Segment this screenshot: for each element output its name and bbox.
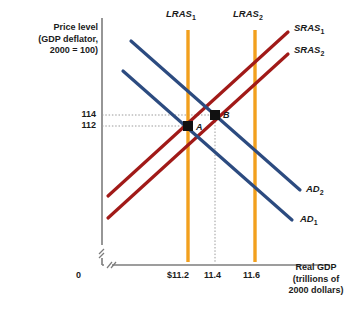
chart-figure: Price level (GDP deflator, 2000 = 100) R… xyxy=(0,0,357,314)
curve-label-ad1-sub: 1 xyxy=(314,219,318,226)
x-axis-title-line2: (trillions of xyxy=(278,274,354,286)
x-axis-title: Real GDP (trillions of 2000 dollars) xyxy=(278,262,354,297)
curve-label-lras1-text: LRAS xyxy=(166,8,192,19)
curve-label-lras1: LRAS1 xyxy=(166,8,196,21)
x-axis-title-line1: Real GDP xyxy=(278,262,354,274)
y-tick-112: 112 xyxy=(54,120,96,130)
point-marker-b xyxy=(210,110,220,120)
curve-label-ad2: AD2 xyxy=(306,183,324,196)
x-tick-11-2: $11.2 xyxy=(167,270,189,280)
curve-label-ad1-text: AD xyxy=(300,213,314,224)
curve-ad1 xyxy=(123,71,292,220)
curve-label-lras2: LRAS2 xyxy=(233,8,263,21)
curve-sras1 xyxy=(108,32,288,196)
curve-label-lras1-sub: 1 xyxy=(192,14,196,21)
y-axis-title-line3: 2000 = 100) xyxy=(14,45,98,57)
x-tick-11-4: 11.4 xyxy=(204,270,221,280)
curve-label-ad2-text: AD xyxy=(306,183,320,194)
curve-label-sras1-text: SRAS xyxy=(294,22,320,33)
curve-label-sras1: SRAS1 xyxy=(294,22,324,35)
curve-label-lras2-text: LRAS xyxy=(233,8,259,19)
y-axis-title-line1: Price level xyxy=(14,22,98,34)
y-tick-114: 114 xyxy=(54,109,96,119)
curve-label-sras2: SRAS2 xyxy=(294,44,324,57)
curve-label-lras2-sub: 2 xyxy=(259,14,263,21)
curve-label-ad2-sub: 2 xyxy=(320,189,324,196)
point-label-a: A xyxy=(196,122,203,132)
curve-label-sras2-sub: 2 xyxy=(320,50,324,57)
y-axis-title: Price level (GDP deflator, 2000 = 100) xyxy=(14,22,98,57)
x-axis-title-line3: 2000 dollars) xyxy=(278,285,354,297)
x-tick-11-6: 11.6 xyxy=(243,270,260,280)
curve-label-sras1-sub: 1 xyxy=(320,28,324,35)
curve-label-sras2-text: SRAS xyxy=(294,44,320,55)
point-marker-a xyxy=(183,121,193,131)
point-label-b: B xyxy=(223,110,230,120)
y-axis-title-line2: (GDP deflator, xyxy=(14,34,98,46)
x-tick-0: 0 xyxy=(76,270,81,280)
curve-label-ad1: AD1 xyxy=(300,213,318,226)
